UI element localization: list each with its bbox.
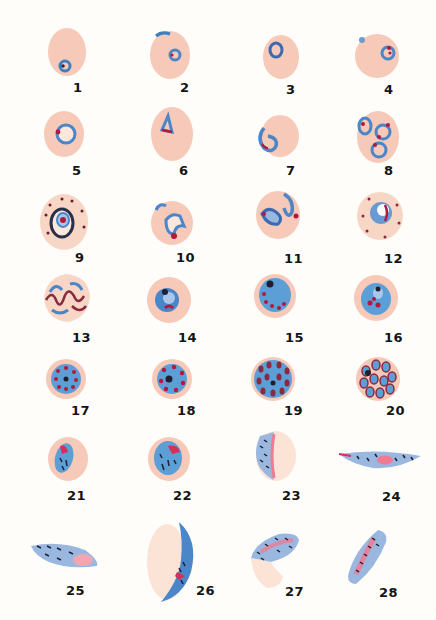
red-cell-trophozoite-icon <box>254 190 302 240</box>
figure-number: 23 <box>282 488 301 503</box>
figure-number: 6 <box>179 163 189 178</box>
gametocyte-crescent-icon <box>145 520 199 604</box>
figure-number: 4 <box>384 82 394 97</box>
figure-number: 2 <box>180 80 190 95</box>
figure-number: 10 <box>176 250 195 265</box>
figure-number: 22 <box>173 488 192 503</box>
red-cell-gametocyte-icon <box>46 436 90 482</box>
red-cell-trophozoite-icon <box>355 191 405 241</box>
red-cell-ring-stage-icon <box>354 33 402 79</box>
red-cell-gametocyte-icon <box>146 436 192 482</box>
red-cell-schizont-icon <box>44 357 88 401</box>
figure-number: 15 <box>285 330 304 345</box>
red-cell-gametocyte-icon <box>245 530 301 590</box>
red-cell-trophozoite-icon <box>38 270 94 326</box>
red-cell-schizont-icon <box>150 357 194 401</box>
figure-number: 20 <box>386 403 405 418</box>
red-cell-trophozoite-icon <box>150 200 194 246</box>
red-cell-schizont-icon <box>352 273 400 323</box>
red-cell-ring-stage-icon <box>261 34 301 80</box>
red-cell-ring-stage-icon <box>42 110 86 158</box>
figure-number: 19 <box>284 403 303 418</box>
red-cell-schizont-icon <box>249 355 297 403</box>
red-cell-trophozoite-icon <box>38 193 90 251</box>
figure-number: 16 <box>384 330 403 345</box>
gametocyte-crescent-icon <box>346 528 388 588</box>
figure-number: 12 <box>384 251 403 266</box>
figure-number: 26 <box>196 583 215 598</box>
figure-number: 24 <box>382 489 401 504</box>
gametocyte-crescent-icon <box>29 540 101 574</box>
figure-number: 7 <box>286 163 296 178</box>
figure-number: 13 <box>72 330 91 345</box>
red-cell-ring-stage-icon <box>148 106 194 162</box>
figure-number: 18 <box>177 403 196 418</box>
gametocyte-crescent-icon <box>337 448 423 472</box>
red-cell-schizont-icon <box>252 272 298 320</box>
figure-number: 14 <box>178 330 197 345</box>
red-cell-gametocyte-icon <box>252 430 298 482</box>
figure-number: 27 <box>285 584 304 599</box>
figure-number: 28 <box>379 585 398 600</box>
red-cell-ring-stage-icon <box>148 30 194 80</box>
red-cell-ring-stage-icon <box>47 28 89 80</box>
figure-number: 11 <box>284 251 303 266</box>
red-cell-ring-stage-icon <box>355 110 401 164</box>
red-cell-trophozoite-icon <box>145 276 193 324</box>
figure-number: 9 <box>75 250 85 265</box>
figure-number: 3 <box>286 82 296 97</box>
figure-number: 21 <box>67 488 86 503</box>
red-cell-ring-stage-icon <box>254 114 300 158</box>
figure-number: 5 <box>72 163 82 178</box>
figure-number: 25 <box>66 583 85 598</box>
figure-number: 17 <box>71 403 90 418</box>
figure-number: 8 <box>384 163 394 178</box>
illustration-plate: 1 2 3 4 5 <box>0 0 436 620</box>
figure-number: 1 <box>73 80 83 95</box>
red-cell-schizont-icon <box>354 355 402 403</box>
